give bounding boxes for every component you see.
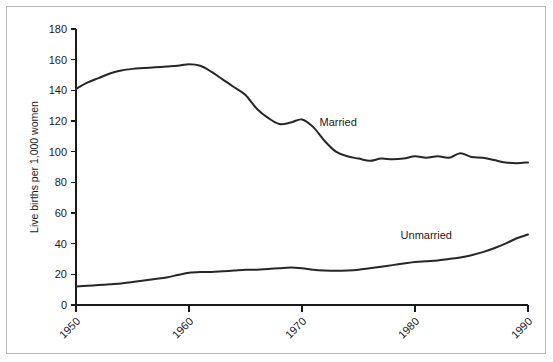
series-line-unmarried [76, 234, 528, 286]
x-tick-label: 1950 [57, 315, 83, 341]
y-tick-label: 20 [55, 268, 67, 280]
y-tick-label: 40 [55, 238, 67, 250]
y-tick-label: 0 [61, 299, 67, 311]
x-tick-label: 1990 [509, 315, 535, 341]
x-tick-label: 1970 [283, 315, 309, 341]
series-label-unmarried: Unmarried [401, 229, 452, 241]
y-axis: 020406080100120140160180 [49, 23, 76, 311]
y-tick-label: 100 [49, 146, 67, 158]
line-chart-canvas: 020406080100120140160180 195019601970198… [0, 0, 553, 362]
series-line-married [76, 64, 528, 163]
x-axis: 19501960197019801990 [57, 305, 535, 341]
chart-figure: 020406080100120140160180 195019601970198… [0, 0, 553, 362]
y-tick-label: 80 [55, 176, 67, 188]
y-tick-label: 120 [49, 115, 67, 127]
y-axis-title: Live births per 1,000 women [28, 101, 40, 233]
y-tick-label: 160 [49, 54, 67, 66]
series-label-married: Married [320, 116, 357, 128]
x-tick-label: 1960 [170, 315, 196, 341]
y-tick-label: 60 [55, 207, 67, 219]
data-series-group [76, 64, 528, 286]
y-tick-label: 180 [49, 23, 67, 35]
y-tick-label: 140 [49, 84, 67, 96]
x-tick-label: 1980 [396, 315, 422, 341]
series-labels-group: MarriedUnmarried [320, 116, 452, 241]
